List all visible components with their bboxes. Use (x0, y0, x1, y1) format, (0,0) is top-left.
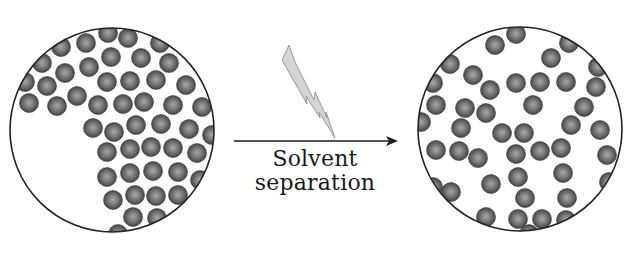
sphere-particle (427, 96, 446, 115)
sphere-particle (477, 208, 496, 227)
sphere-particle (531, 73, 550, 92)
sphere-particle (121, 140, 140, 159)
right-circle-dispersed (412, 25, 623, 244)
sphere-particle (412, 113, 431, 132)
sphere-particle (135, 93, 154, 112)
sphere-particle (114, 95, 133, 114)
sphere-particle (52, 38, 71, 57)
left-circle-aggregated (10, 24, 222, 244)
sphere-particle (98, 73, 117, 92)
sphere-particle (147, 71, 166, 90)
sphere-particle (450, 142, 469, 161)
sphere-particle (507, 145, 526, 164)
sphere-particle (493, 124, 512, 143)
sphere-particle (452, 119, 471, 138)
sphere-particle (427, 141, 446, 160)
sphere-particle (557, 73, 576, 92)
sphere-particle (598, 146, 617, 165)
sphere-particle (424, 178, 443, 197)
lightning-bolt-icon (282, 45, 335, 138)
sphere-particle (591, 121, 610, 140)
sphere-particle (188, 144, 207, 163)
sphere-particle (477, 104, 496, 123)
sphere-particle (554, 164, 573, 183)
sphere-particle (516, 189, 535, 208)
sphere-particle (142, 138, 161, 157)
sphere-particle (80, 58, 99, 77)
sphere-particle (180, 120, 199, 139)
sphere-particle (575, 98, 594, 117)
sphere-particle (99, 24, 118, 43)
sphere-particle (56, 64, 75, 83)
process-label-line2: separation (235, 171, 395, 195)
sphere-particle (524, 96, 543, 115)
sphere-particle (121, 164, 140, 183)
sphere-particle (98, 143, 117, 162)
sphere-particle (531, 142, 550, 161)
diagram-canvas (0, 0, 631, 253)
sphere-particle (132, 49, 151, 68)
sphere-particle (121, 72, 140, 91)
sphere-particle (482, 175, 501, 194)
sphere-particle (68, 87, 87, 106)
sphere-particle (164, 96, 183, 115)
sphere-particle (102, 48, 121, 67)
sphere-particle (441, 55, 460, 74)
sphere-particle (203, 126, 222, 145)
sphere-particle (542, 49, 561, 68)
sphere-particle (589, 58, 608, 77)
solvent-separation-diagram: Solvent separation (0, 0, 631, 253)
process-arrow (234, 136, 398, 146)
sphere-particle (164, 139, 183, 158)
sphere-particle (456, 99, 475, 118)
sphere-particle (533, 210, 552, 229)
sphere-particle (587, 78, 606, 97)
sphere-particle (552, 139, 571, 158)
sphere-particle (193, 98, 212, 117)
sphere-particle (147, 187, 166, 206)
sphere-particle (558, 189, 577, 208)
sphere-particle (562, 116, 581, 135)
left-sphere-cluster (16, 24, 222, 244)
sphere-particle (124, 208, 143, 227)
sphere-particle (507, 74, 526, 93)
sphere-particle (509, 168, 528, 187)
right-sphere-scatter (412, 25, 619, 244)
sphere-particle (105, 123, 124, 142)
sphere-particle (89, 96, 108, 115)
process-label-line1: Solvent (235, 147, 395, 171)
sphere-particle (38, 77, 57, 96)
sphere-particle (481, 81, 500, 100)
sphere-particle (520, 225, 539, 244)
sphere-particle (486, 36, 505, 55)
sphere-particle (98, 168, 117, 187)
sphere-particle (126, 186, 145, 205)
sphere-particle (77, 34, 96, 53)
sphere-particle (48, 97, 67, 116)
sphere-particle (515, 124, 534, 143)
sphere-particle (127, 116, 146, 135)
sphere-particle (464, 66, 483, 85)
sphere-particle (84, 119, 103, 138)
sphere-particle (169, 163, 188, 182)
sphere-particle (442, 183, 461, 202)
sphere-particle (152, 115, 171, 134)
sphere-particle (177, 76, 196, 95)
sphere-particle (469, 149, 488, 168)
sphere-particle (109, 225, 128, 244)
sphere-particle (20, 94, 39, 113)
sphere-particle (144, 162, 163, 181)
sphere-particle (104, 191, 123, 210)
sphere-particle (160, 54, 179, 73)
